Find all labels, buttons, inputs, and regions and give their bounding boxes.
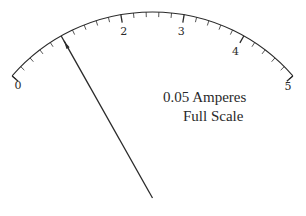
scale-label-3: 3 — [178, 25, 185, 38]
needle-arrowhead-icon — [64, 41, 69, 49]
needle-shaft — [64, 41, 152, 198]
minor-tick — [219, 25, 221, 30]
minor-tick — [195, 17, 196, 22]
minor-tick — [230, 30, 232, 35]
minor-tick — [272, 58, 275, 62]
minor-tick — [171, 13, 172, 18]
minor-tick — [96, 21, 98, 26]
caption-full-scale-value: 0.05 Amperes — [163, 88, 246, 107]
major-tick — [183, 15, 184, 23]
major-tick — [240, 36, 244, 43]
scale-labels: 02345 — [15, 25, 292, 93]
scale-label-2: 2 — [120, 25, 127, 38]
minor-tick — [262, 50, 265, 54]
minor-tick — [50, 43, 53, 47]
scale-ticks — [12, 12, 293, 81]
scale-label-0: 0 — [15, 79, 22, 92]
scale-label-5: 5 — [284, 80, 291, 93]
meter-needle — [64, 41, 152, 198]
major-tick — [121, 15, 122, 23]
minor-tick — [108, 17, 109, 22]
minor-tick — [133, 13, 134, 18]
minor-tick — [40, 50, 43, 54]
caption-full-scale-label: Full Scale — [183, 107, 243, 126]
minor-tick — [84, 25, 86, 30]
meter-dial: 02345 — [0, 0, 306, 216]
minor-tick — [207, 21, 209, 26]
scale-arc — [12, 12, 293, 76]
minor-tick — [252, 43, 255, 47]
minor-tick — [30, 58, 33, 62]
minor-tick — [281, 67, 285, 71]
minor-tick — [21, 67, 25, 71]
minor-tick — [72, 30, 74, 35]
scale-label-4: 4 — [232, 45, 239, 58]
